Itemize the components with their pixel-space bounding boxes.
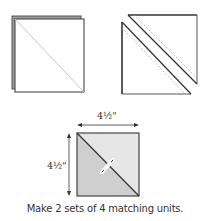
width-label: 4½"	[97, 110, 117, 121]
height-label: 4½"	[47, 160, 67, 171]
height-dimension	[67, 133, 71, 196]
step2-cut-squares	[122, 15, 197, 94]
width-dimension	[77, 123, 139, 127]
step1-stacked-squares	[12, 16, 84, 92]
caption: Make 2 sets of 4 matching units.	[0, 203, 210, 214]
hst-unit	[77, 133, 139, 196]
